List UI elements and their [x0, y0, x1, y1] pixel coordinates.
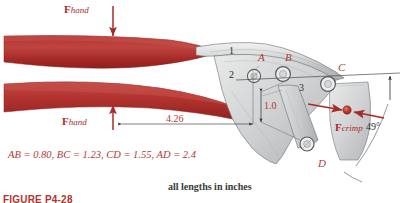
dimension-label-1-0: 1.0: [264, 101, 277, 111]
link-label-2: 2: [229, 70, 234, 80]
force-symbol: F: [62, 115, 69, 127]
joint-label-c: C: [338, 62, 345, 73]
joint-b-pivot: [276, 67, 291, 82]
figure-drawing: [0, 0, 408, 203]
force-label-hand-bottom: Fhand: [62, 116, 87, 127]
link-label-3: 3: [299, 83, 304, 93]
joint-c-pivot: [321, 77, 336, 92]
link-label-1: 1: [229, 46, 234, 56]
dimension-label-4-26: 4.26: [166, 114, 184, 124]
figure-plier-mechanism: Fhand Fhand Fcrimp A B C D 1 2 3 4.26 1.…: [0, 0, 408, 203]
force-subscript: hand: [71, 5, 89, 15]
force-symbol: F: [335, 121, 342, 133]
force-symbol: F: [64, 3, 71, 15]
force-subscript: crimp: [342, 123, 363, 133]
upper-handle: [4, 36, 218, 69]
lower-handle: [4, 82, 238, 120]
force-label-crimp: Fcrimp: [335, 122, 363, 133]
force-label-hand-top: Fhand: [64, 4, 89, 15]
units-note: all lengths in inches: [168, 182, 252, 192]
joint-a-pivot: [247, 69, 260, 82]
joint-label-b: B: [285, 52, 292, 63]
dimension-label-49-deg: 49°: [366, 122, 380, 132]
joint-label-d: D: [318, 158, 326, 169]
dimension-equation-text: AB = 0.80, BC = 1.23, CD = 1.55, AD = 2.…: [8, 150, 196, 161]
joint-d-pivot: [300, 137, 314, 151]
figure-caption: FIGURE P4-28: [3, 195, 73, 203]
force-subscript: hand: [69, 117, 87, 127]
joint-label-a: A: [258, 52, 265, 63]
